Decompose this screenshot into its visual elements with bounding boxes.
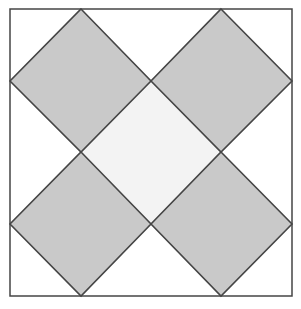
quilt-pattern-diagram [0, 0, 301, 309]
